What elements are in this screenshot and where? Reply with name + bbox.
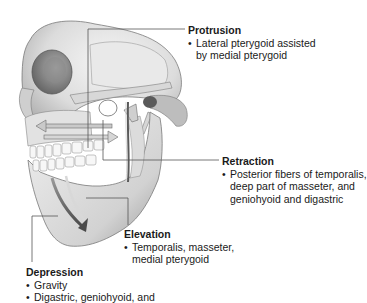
elevation-item: •Temporalis, masseter, [124,241,234,254]
retraction-item-cont: geniohyoid and digastric [222,193,367,206]
depression-title: Depression [26,266,155,279]
elevation-label: Elevation •Temporalis, masseter, medial … [124,228,234,266]
depression-label: Depression •Gravity •Digastric, geniohyo… [26,266,155,303]
protrusion-item-cont: by medial pterygoid [188,49,316,62]
retraction-title: Retraction [222,155,367,168]
bullet-icon: • [26,279,34,292]
teeth [30,140,104,171]
bullet-icon: • [26,291,34,303]
retraction-label: Retraction •Posterior fibers of temporal… [222,155,367,205]
protrusion-label: Protrusion •Lateral pterygoid assisted b… [188,24,316,62]
bullet-icon: • [124,241,132,254]
retraction-item: •Posterior fibers of temporalis, [222,168,367,181]
elevation-title: Elevation [124,228,234,241]
elevation-item-cont: medial pterygoid [124,253,234,266]
bullet-icon: • [188,37,196,50]
depression-item: •Gravity [26,279,155,292]
retraction-item-cont: deep part of masseter, and [222,180,367,193]
depression-item: •Digastric, geniohyoid, and [26,291,155,303]
protrusion-title: Protrusion [188,24,316,37]
bullet-icon: • [222,168,230,181]
protrusion-item: •Lateral pterygoid assisted [188,37,316,50]
